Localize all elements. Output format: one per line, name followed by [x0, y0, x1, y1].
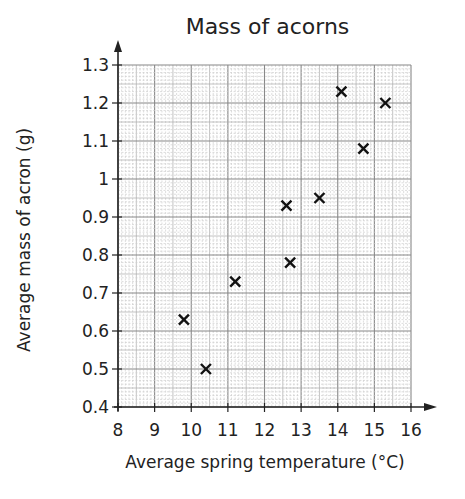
x-tick-label: 9	[149, 420, 160, 440]
x-axis-arrow-icon	[424, 403, 437, 411]
x-tick-label: 13	[290, 420, 312, 440]
x-tick-label: 14	[327, 420, 349, 440]
y-tick-label: 0.4	[82, 397, 109, 417]
x-tick-label: 15	[364, 420, 386, 440]
y-tick-label: 1	[98, 169, 109, 189]
x-tick-label: 8	[113, 420, 124, 440]
x-tick-label: 12	[254, 420, 276, 440]
data-point-x-marker	[179, 315, 189, 325]
y-tick-label: 1.3	[82, 55, 109, 75]
x-tick-label: 10	[180, 420, 202, 440]
y-tick-label: 1.1	[82, 131, 109, 151]
y-axis-arrow-icon	[114, 40, 122, 52]
y-tick-label: 0.7	[82, 283, 109, 303]
y-tick-label: 1.2	[82, 93, 109, 113]
y-tick-label: 0.5	[82, 359, 109, 379]
x-tick-label: 11	[217, 420, 239, 440]
y-tick-label: 0.9	[82, 207, 109, 227]
y-tick-label: 0.8	[82, 245, 109, 265]
y-tick-label: 0.6	[82, 321, 109, 341]
x-tick-label: 16	[400, 420, 422, 440]
scatter-plot: 89101112131415160.40.50.60.70.80.911.11.…	[0, 0, 465, 499]
